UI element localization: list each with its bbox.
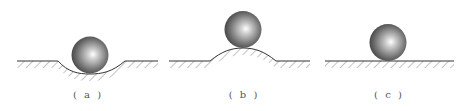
label-c: ( c ) — [369, 89, 409, 100]
ground-hatch-b — [169, 48, 310, 68]
panel-a — [17, 37, 158, 82]
label-b: ( b ) — [224, 89, 264, 100]
ball-b — [225, 11, 262, 48]
ball-a — [72, 37, 109, 74]
panel-c — [325, 24, 454, 68]
ground-hatch-c — [325, 61, 454, 68]
label-a: ( a ) — [68, 89, 108, 100]
panel-b — [169, 11, 310, 68]
equilibrium-figure: ( a ) ( b ) ( c ) — [0, 0, 465, 111]
ball-c — [370, 24, 407, 61]
